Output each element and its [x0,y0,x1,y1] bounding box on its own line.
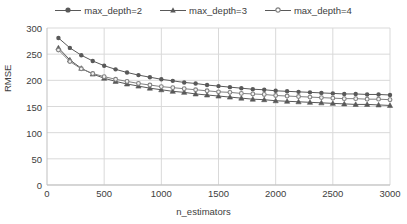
data-point-marker [79,67,83,71]
data-point-marker [376,92,380,96]
data-point-marker [308,90,312,94]
data-point-marker [388,98,392,102]
series-line [58,38,390,95]
data-point-marker [342,97,346,101]
data-point-marker [217,90,221,94]
data-point-marker [365,92,369,96]
data-point-marker [125,70,129,74]
data-point-marker [125,79,129,83]
data-point-marker [102,75,106,79]
data-point-marker [68,46,72,50]
data-point-marker [148,75,152,79]
data-point-marker [296,90,300,94]
data-point-marker [388,93,392,97]
data-point-marker [320,96,324,100]
data-point-marker [113,67,117,71]
series-max-depth-2 [56,36,392,97]
data-point-marker [57,48,61,52]
data-point-marker [91,59,95,63]
data-point-marker [331,91,335,95]
data-point-marker [79,53,83,57]
data-point-marker [262,93,266,97]
data-point-marker [308,95,312,99]
data-point-marker [297,95,301,99]
data-point-marker [251,92,255,96]
data-point-marker [159,77,163,81]
data-point-marker [331,96,335,100]
data-point-marker [205,83,209,87]
data-point-marker [342,92,346,96]
data-point-marker [216,84,220,88]
data-point-marker [182,87,186,91]
data-point-marker [228,90,232,94]
data-point-marker [68,60,72,64]
series-line [58,50,390,100]
data-point-marker [193,81,197,85]
data-point-marker [148,83,152,87]
data-point-marker [171,86,175,90]
data-point-marker [273,89,277,93]
plot-area [0,0,407,224]
data-point-marker [136,73,140,77]
data-point-marker [56,36,60,40]
data-point-marker [205,89,209,93]
data-point-marker [262,88,266,92]
data-point-marker [239,86,243,90]
data-point-marker [251,87,255,91]
data-point-marker [377,97,381,101]
data-point-marker [228,85,232,89]
data-point-marker [365,97,369,101]
data-point-marker [171,79,175,83]
series-line [58,48,390,106]
data-point-marker [102,63,106,67]
data-point-marker [354,97,358,101]
data-point-marker [159,85,163,89]
data-point-marker [285,89,289,93]
data-point-marker [239,92,243,96]
data-point-marker [91,72,95,76]
data-point-marker [194,88,198,92]
data-point-marker [285,94,289,98]
data-point-marker [137,82,141,86]
data-point-marker [319,91,323,95]
data-point-marker [182,80,186,84]
data-point-marker [274,94,278,98]
data-point-marker [114,77,118,81]
data-point-marker [354,92,358,96]
chart-container: max_depth=2 max_depth=3 max_depth=4 RMSE… [0,0,407,224]
